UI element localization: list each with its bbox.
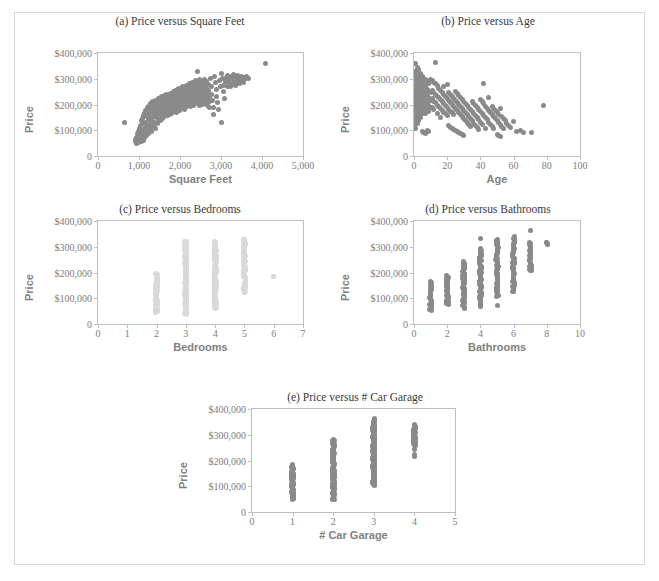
y-tick-label: 0 (241, 507, 246, 518)
x-tick-mark (414, 513, 415, 516)
data-point (290, 462, 295, 467)
figure-frame: (a) Price versus Square Feet0$100,000$20… (14, 12, 645, 565)
chart-title-e: (e) Price versus # Car Garage (165, 391, 545, 403)
y-tick-mark (248, 409, 251, 410)
x-tick-label: 1 (290, 516, 295, 527)
data-point (412, 447, 417, 452)
x-tick-mark (293, 513, 294, 516)
y-tick-label: $200,000 (209, 455, 247, 466)
y-tick-label: $300,000 (209, 429, 247, 440)
y-tick-label: $400,000 (209, 404, 247, 415)
x-tick-mark (455, 513, 456, 516)
x-tick-label: 4 (412, 516, 417, 527)
x-tick-mark (252, 513, 253, 516)
data-point (372, 416, 377, 421)
x-tick-mark (374, 513, 375, 516)
x-tick-label: 2 (331, 516, 336, 527)
y-tick-mark (248, 486, 251, 487)
plot-area-e (251, 408, 456, 513)
x-axis-label-e: # Car Garage (251, 529, 456, 541)
x-tick-mark (333, 513, 334, 516)
y-axis-label-e: Price (177, 462, 189, 489)
x-tick-label: 5 (453, 516, 458, 527)
chart-panel-e: (e) Price versus # Car Garage0$100,000$2… (15, 13, 646, 566)
data-point (412, 454, 417, 459)
y-tick-mark (248, 435, 251, 436)
y-tick-mark (248, 512, 251, 513)
data-point (331, 437, 336, 442)
plot-points-e (252, 409, 455, 512)
x-tick-label: 0 (250, 516, 255, 527)
y-tick-label: $100,000 (209, 481, 247, 492)
x-tick-label: 3 (371, 516, 376, 527)
y-tick-mark (248, 461, 251, 462)
